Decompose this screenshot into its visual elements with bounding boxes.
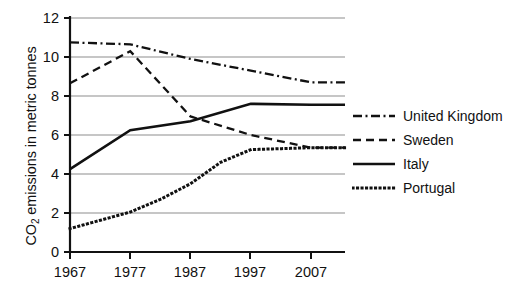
legend-label-portugal: Portugal — [403, 181, 455, 195]
xtick-label-2007: 2007 — [295, 264, 327, 280]
ytick-label-6: 6 — [51, 127, 59, 143]
ytick-label-0: 0 — [51, 244, 59, 260]
ytick-label-12: 12 — [43, 10, 59, 26]
xtick-label-1987: 1987 — [174, 264, 206, 280]
ytick-label-2: 2 — [51, 205, 59, 221]
series-line-sweden — [70, 51, 345, 148]
legend-item-sweden: Sweden — [352, 128, 522, 152]
legend-item-united-kingdom: United Kingdom — [352, 104, 522, 128]
legend-item-portugal: Portugal — [352, 176, 522, 200]
xtick-label-1967: 1967 — [54, 264, 86, 280]
legend-swatch-dashed-icon — [352, 133, 396, 147]
series-line-italy — [70, 104, 345, 169]
ytick-label-4: 4 — [51, 166, 59, 182]
legend-swatch-dashdot-icon — [352, 109, 396, 123]
legend-swatch-solid-icon — [352, 157, 396, 171]
ytick-label-8: 8 — [51, 88, 59, 104]
xtick-label-1977: 1977 — [114, 264, 146, 280]
legend: United Kingdom Sweden Italy Portugal — [352, 104, 522, 200]
legend-label-sweden: Sweden — [403, 133, 454, 147]
legend-item-italy: Italy — [352, 152, 522, 176]
series-line-portugal — [70, 148, 345, 229]
co2-emissions-line-chart: CO2 emissions in metric tonnes 12 1 — [0, 0, 525, 293]
legend-label-united-kingdom: United Kingdom — [403, 109, 503, 123]
plot-area: 12 10 8 6 4 2 0 1967 1977 1987 1997 2007 — [0, 0, 360, 293]
ytick-label-10: 10 — [43, 49, 59, 65]
x-axis-tick-labels: 1967 1977 1987 1997 2007 — [54, 264, 327, 280]
legend-label-italy: Italy — [403, 157, 429, 171]
xtick-label-1997: 1997 — [234, 264, 266, 280]
y-axis-tick-labels: 12 10 8 6 4 2 0 — [43, 10, 59, 260]
legend-swatch-dotted-icon — [352, 181, 396, 195]
